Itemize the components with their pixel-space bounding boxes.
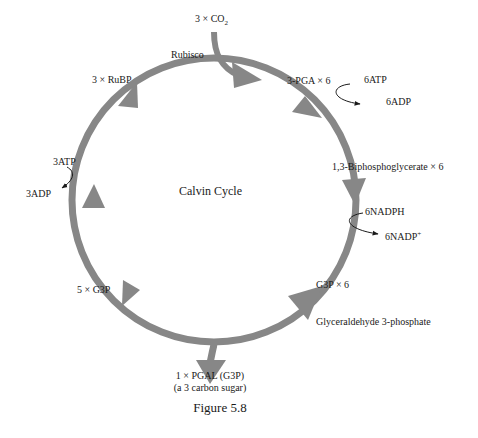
output-line1: 1 × PGAL (G3P) [150,370,270,382]
output-line2: (a 3 carbon sugar) [150,382,270,394]
5g3p-label: 5 × G3P [77,284,110,296]
cycle-title: Calvin Cycle [179,185,242,197]
atp-left-label: 3ATP [53,156,76,168]
adp-right-label: 6ADP [386,96,411,108]
rubp-label: 3 × RuBP [92,74,132,86]
atp-adp-right-arrow [336,84,360,104]
rubisco-label: Rubisco [171,49,204,61]
atp-right-label: 6ATP [364,74,387,86]
g3p-label: G3P × 6 [316,279,349,291]
adp-left-label: 3ADP [26,188,51,200]
arrowhead-5g3p [122,280,140,306]
arrowhead-bpg [342,178,366,205]
bpg-label: 1,3-Biphosphoglycerate × 6 [332,161,443,173]
co2-label: 3 × CO2 [195,13,228,29]
nadph-label: 6NADPH [365,206,404,218]
pga-label: 3-PGA × 6 [287,75,330,87]
g3p-full-name-label: Glyceraldehyde 3-phosphate [316,316,431,328]
arrowhead-rubp-lower [82,184,105,208]
nadp-label: 6NADP+ [385,228,421,243]
figure-caption: Figure 5.8 [170,402,270,414]
